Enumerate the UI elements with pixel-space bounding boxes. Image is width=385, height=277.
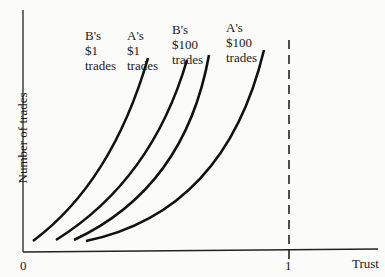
- series-label-b-1: B's $1 trades: [85, 28, 116, 73]
- series-label-a-1: A's $1 trades: [127, 28, 158, 73]
- chart: B's $1 trades A's $1 trades B's $100 tra…: [0, 0, 385, 277]
- series-label-a-100: A's $100 trades: [226, 20, 257, 65]
- series-label-b-100: B's $100 trades: [172, 22, 203, 67]
- curve-a-1: [56, 60, 187, 240]
- y-axis-label: Number of trades: [15, 83, 31, 193]
- x-axis-label: Trust: [352, 256, 379, 271]
- x-axis: [23, 249, 378, 252]
- x-tick-0: 0: [20, 258, 27, 273]
- x-tick-1: 1: [285, 258, 292, 273]
